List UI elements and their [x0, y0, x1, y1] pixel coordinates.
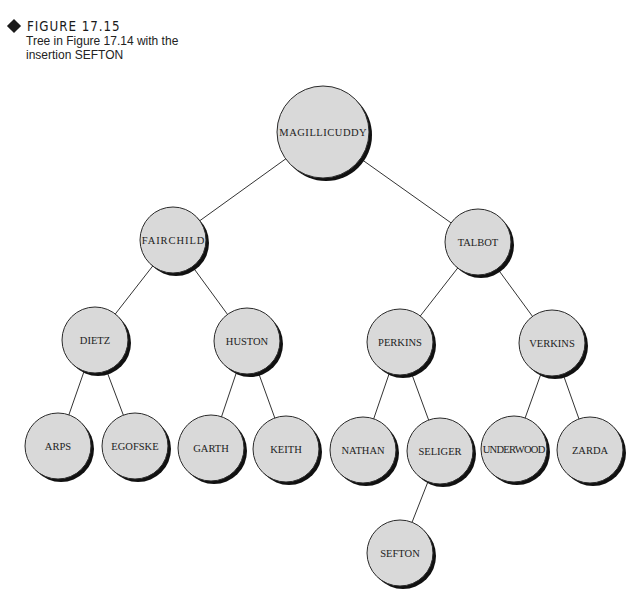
- node-label: SELIGER: [418, 446, 461, 457]
- node-label: SEFTON: [380, 548, 420, 559]
- tree-node-perkins: PERKINS: [367, 309, 436, 378]
- node-label: DIETZ: [80, 335, 110, 346]
- tree-node-underwood: UNDERWOOD: [481, 416, 550, 485]
- node-label: NATHAN: [341, 445, 385, 456]
- node-label: VERKINS: [529, 338, 575, 349]
- tree-node-arps: ARPS: [25, 413, 94, 482]
- node-label: MAGILLICUDDY: [279, 127, 367, 138]
- node-label: HUSTON: [226, 336, 269, 347]
- tree-edges: [58, 132, 590, 553]
- tree-node-talbot: TALBOT: [445, 209, 514, 278]
- tree-node-egofske: EGOFSKE: [102, 413, 171, 482]
- node-label: ZARDA: [572, 445, 609, 456]
- node-label: UNDERWOOD: [483, 444, 546, 455]
- node-label: GARTH: [193, 443, 229, 454]
- node-label: TALBOT: [458, 237, 499, 248]
- node-label: KEITH: [270, 444, 302, 455]
- node-label: ARPS: [45, 441, 71, 452]
- tree-node-nathan: NATHAN: [330, 417, 399, 486]
- tree-node-magillicuddy: MAGILLICUDDY: [277, 86, 372, 181]
- tree-node-fairchild: FAIRCHILD: [140, 207, 209, 276]
- tree-node-dietz: DIETZ: [62, 307, 131, 376]
- node-label: FAIRCHILD: [142, 235, 205, 246]
- tree-node-keith: KEITH: [253, 416, 322, 485]
- tree-nodes: MAGILLICUDDYFAIRCHILDTALBOTDIETZHUSTONPE…: [25, 86, 626, 589]
- tree-node-garth: GARTH: [178, 415, 247, 484]
- binary-tree-diagram: MAGILLICUDDYFAIRCHILDTALBOTDIETZHUSTONPE…: [0, 0, 643, 598]
- tree-node-huston: HUSTON: [214, 308, 283, 377]
- tree-node-sefton: SEFTON: [367, 520, 436, 589]
- node-label: PERKINS: [378, 337, 422, 348]
- tree-node-verkins: VERKINS: [519, 310, 588, 379]
- tree-node-seliger: SELIGER: [407, 418, 476, 487]
- tree-node-zarda: ZARDA: [557, 417, 626, 486]
- node-label: EGOFSKE: [111, 441, 158, 452]
